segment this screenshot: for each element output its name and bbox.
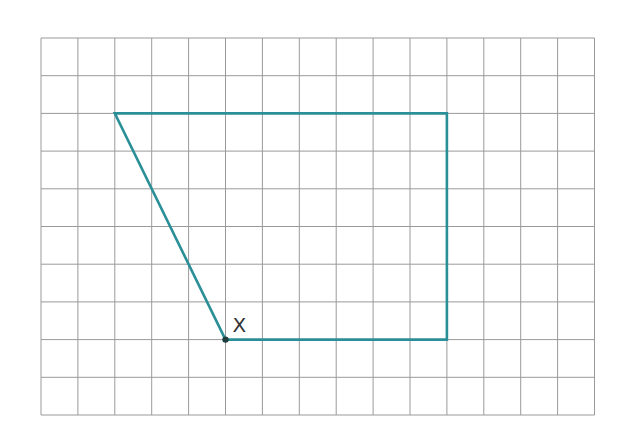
point-x-label: X xyxy=(233,313,247,337)
grid-diagram: X xyxy=(0,0,629,446)
point-x-marker xyxy=(222,336,228,342)
grid-lines xyxy=(41,38,595,415)
